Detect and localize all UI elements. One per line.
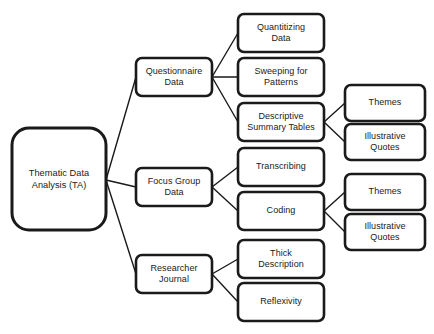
node-box-illustrative-quotes-1[interactable] bbox=[345, 124, 425, 160]
node-box-root[interactable] bbox=[12, 128, 106, 230]
node-box-quantitizing-data[interactable] bbox=[238, 14, 324, 52]
node-box-descriptive-summary-tables[interactable] bbox=[238, 103, 324, 141]
connector-descriptive-to-quotes-1 bbox=[324, 122, 345, 142]
node-box-researcher-journal[interactable] bbox=[136, 255, 212, 293]
connector-descriptive-to-themes-1 bbox=[324, 103, 345, 122]
node-box-reflexivity[interactable] bbox=[238, 283, 324, 321]
node-box-transcribing[interactable] bbox=[238, 148, 324, 186]
node-box-sweeping-for-patterns[interactable] bbox=[238, 58, 324, 96]
node-box-thick-description[interactable] bbox=[238, 240, 324, 278]
connector-root-to-questionnaire bbox=[106, 77, 136, 180]
connector-focus-group-to-transcribing bbox=[212, 167, 238, 187]
connector-focus-group-to-coding bbox=[212, 187, 238, 211]
node-box-coding[interactable] bbox=[238, 192, 324, 230]
node-box-illustrative-quotes-2[interactable] bbox=[345, 214, 425, 250]
connector-coding-to-quotes-2 bbox=[324, 211, 345, 232]
connector-questionnaire-to-descriptive bbox=[212, 77, 238, 122]
node-box-themes-1[interactable] bbox=[345, 85, 425, 121]
node-box-themes-2[interactable] bbox=[345, 174, 425, 210]
node-box-questionnaire-data[interactable] bbox=[136, 58, 212, 96]
connector-journal-to-thick-description bbox=[212, 259, 238, 274]
node-box-layer bbox=[12, 14, 425, 321]
connector-questionnaire-to-quantitizing bbox=[212, 33, 238, 77]
thematic-analysis-diagram: Thematic Data Analysis (TA)Questionnaire… bbox=[0, 0, 434, 334]
connector-root-to-researcher-journal bbox=[106, 180, 136, 274]
connector-journal-to-reflexivity bbox=[212, 274, 238, 302]
diagram-canvas bbox=[0, 0, 434, 334]
node-box-focus-group-data[interactable] bbox=[136, 168, 212, 206]
connector-coding-to-themes-2 bbox=[324, 192, 345, 211]
connector-root-to-focus-group bbox=[106, 180, 136, 187]
